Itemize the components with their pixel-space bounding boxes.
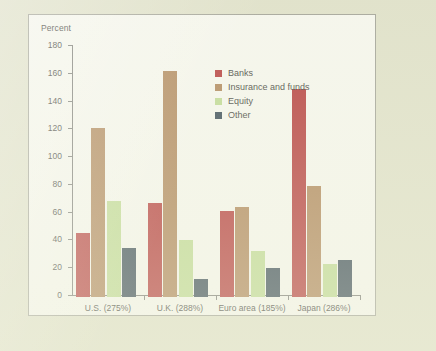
legend-item[interactable]: Banks	[215, 67, 310, 80]
bar	[235, 207, 249, 297]
y-axis-tick-label: 100	[48, 151, 62, 161]
x-axis-category-label: U.S. (275%)	[85, 303, 131, 313]
y-axis-tick-label: 0	[57, 290, 62, 300]
bar	[76, 233, 90, 297]
bar	[91, 128, 105, 297]
bar	[323, 264, 337, 297]
bar	[107, 201, 121, 297]
legend-item[interactable]: Equity	[215, 95, 310, 108]
figure-container: Percent 020406080100120140160180 U.S. (2…	[0, 0, 436, 351]
y-axis-tick-label: 60	[53, 207, 62, 217]
legend-label: Equity	[228, 97, 253, 106]
bar	[251, 251, 265, 297]
x-axis-category-label: U.K. (288%)	[157, 303, 203, 313]
bar	[148, 203, 162, 297]
x-axis-category-label: Japan (286%)	[298, 303, 351, 313]
legend-swatch-icon	[215, 112, 222, 119]
bar	[194, 279, 208, 297]
bar	[307, 186, 321, 297]
y-axis-tick-label: 80	[53, 179, 62, 189]
bar	[220, 211, 234, 297]
bar	[163, 71, 177, 297]
y-axis-tick-label: 180	[48, 40, 62, 50]
chart-legend: BanksInsurance and fundsEquityOther	[215, 67, 310, 123]
chart-panel: Percent 020406080100120140160180 U.S. (2…	[28, 14, 376, 316]
bar-group	[144, 47, 216, 297]
legend-item[interactable]: Insurance and funds	[215, 81, 310, 94]
legend-label: Insurance and funds	[228, 83, 310, 92]
bar	[266, 268, 280, 297]
legend-swatch-icon	[215, 70, 222, 77]
legend-label: Banks	[228, 69, 253, 78]
y-axis-tick-label: 20	[53, 262, 62, 272]
bar	[179, 240, 193, 297]
bar	[122, 248, 136, 297]
legend-label: Other	[228, 111, 251, 120]
y-axis-tick	[68, 45, 73, 46]
x-axis-tick	[360, 295, 361, 300]
y-axis-tick-label: 120	[48, 123, 62, 133]
y-axis-tick-label: 160	[48, 68, 62, 78]
bar	[338, 260, 352, 298]
bar-group	[72, 47, 144, 297]
legend-swatch-icon	[215, 98, 222, 105]
y-axis-unit-label: Percent	[41, 23, 71, 33]
y-axis-tick-label: 140	[48, 96, 62, 106]
x-axis-category-label: Euro area (185%)	[218, 303, 285, 313]
legend-item[interactable]: Other	[215, 109, 310, 122]
legend-swatch-icon	[215, 84, 222, 91]
y-axis-tick-label: 40	[53, 234, 62, 244]
